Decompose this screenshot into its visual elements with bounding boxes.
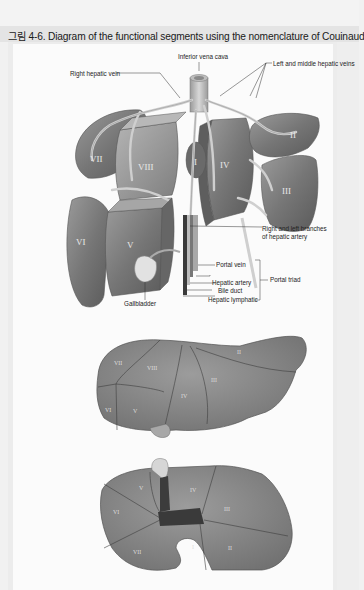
- label-hepatic-artery-branches-line2: of hepatic artery: [262, 233, 308, 241]
- segment-label-viii: VIII: [147, 365, 157, 371]
- segment-label-v: V: [139, 485, 144, 491]
- segment-label-ii: II: [228, 545, 232, 551]
- exploded-liver-diagram: VII VIII I IV II III VI V Inferior vena …: [67, 53, 355, 307]
- segment-label-ii: II: [237, 349, 241, 355]
- label-right-hepatic-vein: Right hepatic vein: [70, 70, 121, 78]
- anterior-view-diagram: VII VIII II III IV VI V: [97, 335, 306, 437]
- segment-label-iii: III: [224, 506, 230, 512]
- label-bile-duct: Bile duct: [218, 287, 242, 294]
- segment-label-iv: IV: [181, 393, 188, 399]
- segment-label-iii: III: [282, 186, 291, 196]
- label-inferior-vena-cava: Inferior vena cava: [178, 53, 229, 60]
- segment-label-i: I: [192, 544, 194, 550]
- segment-label-vii: VII: [114, 360, 122, 366]
- segment-label-vi: VI: [113, 509, 119, 515]
- inferior-view-diagram: V VI IV III VII I II: [100, 458, 292, 570]
- segment-label-ii: II: [290, 130, 296, 140]
- label-hepatic-artery: Hepatic artery: [212, 279, 252, 287]
- segment-label-iv: IV: [190, 487, 197, 493]
- segment-label-i: I: [194, 157, 197, 167]
- segment-label-viii: VIII: [138, 162, 154, 172]
- segment-label-iii: III: [211, 377, 217, 383]
- segment-label-vi: VI: [105, 407, 111, 413]
- segment-label-v: V: [127, 240, 134, 250]
- segment-label-iv: IV: [220, 160, 230, 170]
- label-gallbladder: Gallbladder: [124, 300, 156, 307]
- label-hepatic-lymphatic: Hepatic lymphatic: [208, 296, 258, 304]
- segment-label-v: V: [133, 408, 138, 414]
- label-left-middle-hepatic-veins: Left and middle hepatic veins: [273, 60, 355, 68]
- segment-label-vii: VII: [133, 549, 141, 555]
- segment-label-vi: VI: [76, 237, 86, 247]
- label-portal-vein: Portal vein: [216, 261, 246, 268]
- label-portal-triad: Portal triad: [270, 276, 301, 283]
- label-hepatic-artery-branches-line1: Right and left branches: [262, 225, 327, 233]
- segment-label-vii: VII: [90, 154, 103, 164]
